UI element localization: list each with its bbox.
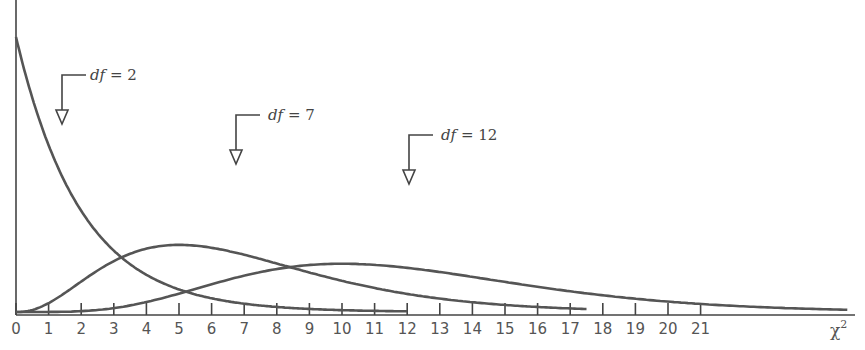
- label-df-12: df = 12: [441, 126, 497, 144]
- callout-arrow-icon: [409, 135, 433, 170]
- x-tick-label: 16: [528, 320, 547, 338]
- label-df-7: df = 7: [268, 106, 315, 124]
- callout-arrow-icon: [236, 115, 260, 150]
- arrow-head-icon: [230, 150, 242, 164]
- x-tick-label: 11: [365, 320, 384, 338]
- x-tick-labels: 0123456789101112131415161718192021: [11, 320, 710, 338]
- callout-df-12: [403, 135, 433, 184]
- x-tick-label: 9: [305, 320, 315, 338]
- x-ticks: [16, 303, 701, 315]
- x-tick-label: 20: [658, 320, 677, 338]
- x-tick-label: 1: [44, 320, 54, 338]
- x-tick-label: 0: [11, 320, 21, 338]
- x-tick-label: 15: [495, 320, 514, 338]
- x-tick-label: 21: [691, 320, 710, 338]
- callout-arrow-icon: [62, 75, 86, 110]
- x-tick-label: 10: [332, 320, 351, 338]
- x-tick-label: 6: [207, 320, 217, 338]
- arrow-head-icon: [56, 110, 68, 124]
- chi-square-chart: 0123456789101112131415161718192021 χ2 df…: [0, 0, 865, 350]
- x-tick-label: 2: [76, 320, 86, 338]
- arrow-head-icon: [403, 170, 415, 184]
- label-df-2: df = 2: [90, 66, 137, 84]
- x-tick-label: 3: [109, 320, 119, 338]
- x-tick-label: 4: [142, 320, 152, 338]
- x-tick-label: 5: [174, 320, 184, 338]
- callout-df-2: [56, 75, 86, 124]
- x-tick-label: 19: [626, 320, 645, 338]
- x-axis-title: χ2: [830, 318, 847, 340]
- x-tick-label: 8: [272, 320, 282, 338]
- x-tick-label: 18: [593, 320, 612, 338]
- x-tick-label: 12: [398, 320, 417, 338]
- axes: 0123456789101112131415161718192021 χ2: [11, 0, 855, 340]
- x-tick-label: 7: [239, 320, 249, 338]
- x-tick-label: 13: [430, 320, 449, 338]
- callout-df-7: [230, 115, 260, 164]
- x-tick-label: 17: [561, 320, 580, 338]
- curves: [16, 37, 847, 312]
- curve-df-7: [16, 245, 587, 312]
- x-tick-label: 14: [463, 320, 482, 338]
- curve-df-2: [16, 37, 407, 311]
